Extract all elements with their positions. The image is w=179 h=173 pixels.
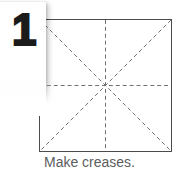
paper-square [39,19,172,152]
crease-lines-group [40,20,171,151]
step-caption: Make creases. [0,153,179,172]
step-number-label: 1 [12,11,35,49]
origami-step-figure: 1 Make creases. [0,0,179,173]
